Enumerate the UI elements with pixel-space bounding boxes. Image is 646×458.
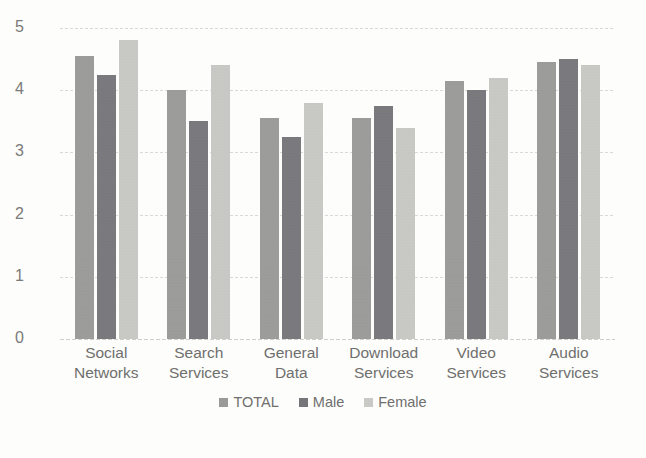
- bar-total-3[interactable]: [352, 118, 371, 339]
- bar-group-download-services: [338, 28, 431, 339]
- x-label-line: Audio: [523, 343, 616, 363]
- bar-series-layer: [60, 28, 615, 339]
- bar-female-1[interactable]: [211, 65, 230, 339]
- legend-item-male[interactable]: Male: [299, 394, 344, 410]
- bar-female-5[interactable]: [581, 65, 600, 339]
- x-label-line: Search: [153, 343, 246, 363]
- y-tick-label-1: 1: [0, 267, 24, 285]
- bar-total-2[interactable]: [260, 118, 279, 339]
- x-label-line: Services: [523, 363, 616, 383]
- bar-male-0[interactable]: [97, 75, 116, 339]
- bar-total-5[interactable]: [537, 62, 556, 339]
- bar-total-0[interactable]: [75, 56, 94, 339]
- x-label-line: General: [245, 343, 338, 363]
- legend-item-total[interactable]: TOTAL: [219, 394, 278, 410]
- x-axis-category-labels: SocialNetworksSearchServicesGeneralDataD…: [60, 343, 615, 383]
- bar-group-video-services: [430, 28, 523, 339]
- x-label-line: Networks: [60, 363, 153, 383]
- chart-legend: TOTALMaleFemale: [0, 394, 646, 410]
- legend-swatch-icon: [219, 398, 228, 407]
- y-tick-label-3: 3: [0, 142, 24, 160]
- legend-label: TOTAL: [233, 394, 278, 410]
- bar-chart: 012345 SocialNetworksSearchServicesGener…: [0, 0, 646, 458]
- bar-female-0[interactable]: [119, 40, 138, 339]
- x-label-line: Services: [338, 363, 431, 383]
- y-tick-label-4: 4: [0, 80, 24, 98]
- bar-group-search-services: [153, 28, 246, 339]
- bar-group-general-data: [245, 28, 338, 339]
- gridline-0: [60, 339, 615, 340]
- x-label-line: Social: [60, 343, 153, 363]
- legend-swatch-icon: [364, 398, 373, 407]
- bar-female-2[interactable]: [304, 103, 323, 339]
- y-tick-label-5: 5: [0, 18, 24, 36]
- bar-male-3[interactable]: [374, 106, 393, 339]
- x-label-download-services: DownloadServices: [338, 343, 431, 383]
- x-label-search-services: SearchServices: [153, 343, 246, 383]
- bar-male-2[interactable]: [282, 137, 301, 339]
- x-label-video-services: VideoServices: [430, 343, 523, 383]
- x-label-social-networks: SocialNetworks: [60, 343, 153, 383]
- bar-male-1[interactable]: [189, 121, 208, 339]
- x-label-line: Services: [153, 363, 246, 383]
- x-label-line: Download: [338, 343, 431, 363]
- y-tick-label-2: 2: [0, 205, 24, 223]
- legend-label: Male: [313, 394, 344, 410]
- bar-total-4[interactable]: [445, 81, 464, 339]
- x-label-audio-services: AudioServices: [523, 343, 616, 383]
- x-label-line: Video: [430, 343, 523, 363]
- x-label-general-data: GeneralData: [245, 343, 338, 383]
- legend-label: Female: [378, 394, 426, 410]
- bar-male-4[interactable]: [467, 90, 486, 339]
- legend-swatch-icon: [299, 398, 308, 407]
- y-tick-label-0: 0: [0, 329, 24, 347]
- bar-group-audio-services: [523, 28, 616, 339]
- bar-total-1[interactable]: [167, 90, 186, 339]
- x-label-line: Services: [430, 363, 523, 383]
- x-label-line: Data: [245, 363, 338, 383]
- legend-item-female[interactable]: Female: [364, 394, 426, 410]
- bar-group-social-networks: [60, 28, 153, 339]
- plot-area: [60, 28, 615, 339]
- bar-female-3[interactable]: [396, 128, 415, 339]
- bar-male-5[interactable]: [559, 59, 578, 339]
- bar-female-4[interactable]: [489, 78, 508, 339]
